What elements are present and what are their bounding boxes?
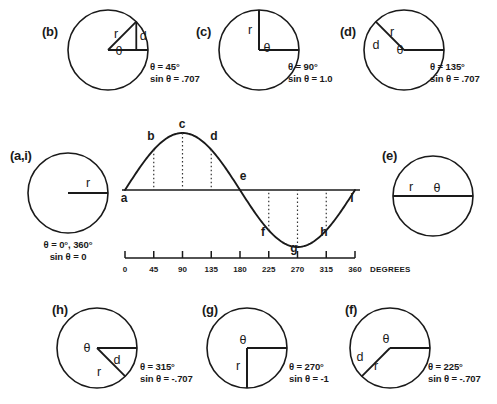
curve-point-label-d: d xyxy=(210,129,217,143)
radius-label-d: r xyxy=(390,25,394,39)
terminal-radius-h xyxy=(97,348,125,376)
theta-value-c: θ = 90° xyxy=(288,61,318,72)
circle-labels-a,i: r xyxy=(86,176,90,190)
sin-value-h: sin θ = -.707 xyxy=(140,373,193,384)
radius-label-h: r xyxy=(97,365,101,379)
radius-label-e: r xyxy=(409,180,413,194)
circle-diagram-c xyxy=(219,10,299,90)
sine-circle-figure: rθdrθrθdrrθθrdθrθrd (b)θ = 45°sin θ = .7… xyxy=(0,0,497,404)
tick-label-180: 180 xyxy=(233,265,247,274)
circle-diagram-g xyxy=(207,308,287,388)
curve-point-label-c: c xyxy=(179,117,186,131)
theta-value-b: θ = 45° xyxy=(150,61,180,72)
radius-label-b: r xyxy=(114,27,118,41)
theta-value-g: θ = 270° xyxy=(289,361,324,372)
distance-label-b: d xyxy=(140,29,147,43)
panel-label-f: (f) xyxy=(345,302,357,317)
tick-label-135: 135 xyxy=(205,265,219,274)
sin-value-d: sin θ = .707 xyxy=(430,73,480,84)
panel-label-g: (g) xyxy=(202,302,218,317)
theta-label-f: θ xyxy=(383,332,390,346)
circle-labels-h: θrd xyxy=(84,341,121,379)
circle-diagram-a,i xyxy=(28,153,108,233)
sin-value-g: sin θ = -1 xyxy=(289,373,330,384)
panel-label-c: (c) xyxy=(196,24,211,39)
sin-value-a,i: sin θ = 0 xyxy=(50,251,87,262)
panel-label-b: (b) xyxy=(42,24,58,39)
tick-label-315: 315 xyxy=(320,265,334,274)
theta-label-b: θ xyxy=(116,44,123,58)
circle-labels-d: rθd xyxy=(373,25,404,57)
circle-labels-b: rθd xyxy=(114,27,147,58)
distance-label-d: d xyxy=(373,38,380,52)
panel-label-d: (d) xyxy=(340,24,356,39)
tick-label-0: 0 xyxy=(123,265,128,274)
sin-value-f: sin θ = -.707 xyxy=(428,373,481,384)
theta-label-c: θ xyxy=(264,41,271,55)
theta-value-h: θ = 315° xyxy=(140,361,175,372)
curve-point-label-h: h xyxy=(320,225,327,239)
tick-label-45: 45 xyxy=(149,265,158,274)
circle-labels-e: rθ xyxy=(409,180,441,195)
sin-value-c: sin θ = 1.0 xyxy=(288,73,332,84)
theta-value-f: θ = 225° xyxy=(428,361,463,372)
curve-point-label-i: i xyxy=(350,191,353,205)
radius-label-g: r xyxy=(236,359,240,373)
theta-label-d: θ xyxy=(397,43,404,57)
theta-label-h: θ xyxy=(84,341,91,355)
tick-label-360: 360 xyxy=(348,265,362,274)
panel-label-h: (h) xyxy=(52,302,68,317)
curve-point-label-e: e xyxy=(240,169,247,183)
circle-labels-g: θr xyxy=(236,333,247,373)
curve-point-label-b: b xyxy=(147,129,154,143)
degree-scale-layer xyxy=(125,251,355,258)
x-axis-title: DEGREES xyxy=(370,265,411,274)
figure-canvas: rθdrθrθdrrθθrdθrθrd (b)θ = 45°sin θ = .7… xyxy=(0,0,497,404)
radius-label-c: r xyxy=(248,23,252,37)
distance-label-h: d xyxy=(114,353,121,367)
theta-value-d: θ = 135° xyxy=(430,61,465,72)
theta-label-g: θ xyxy=(240,333,247,347)
curve-point-label-a: a xyxy=(121,191,128,205)
sin-value-b: sin θ = .707 xyxy=(150,73,200,84)
text-layer: (b)θ = 45°sin θ = .707(c)θ = 90°sin θ = … xyxy=(10,24,481,384)
radius-label-f: r xyxy=(374,359,378,373)
tick-label-270: 270 xyxy=(291,265,305,274)
curve-point-label-g: g xyxy=(290,241,297,255)
theta-label-e: θ xyxy=(434,181,441,195)
circle-diagram-f xyxy=(350,308,430,388)
panel-label-e: (e) xyxy=(382,148,397,163)
circle-diagrams-layer: rθdrθrθdrrθθrdθrθrd xyxy=(28,10,473,388)
radius-label-ai: r xyxy=(86,176,90,190)
circle-diagram-b xyxy=(68,10,148,90)
tick-label-225: 225 xyxy=(262,265,276,274)
theta-value-a,i: θ = 0°, 360° xyxy=(44,239,93,250)
panel-label-a,i: (a,i) xyxy=(10,148,32,163)
distance-label-f: d xyxy=(357,350,364,364)
tick-label-90: 90 xyxy=(178,265,187,274)
